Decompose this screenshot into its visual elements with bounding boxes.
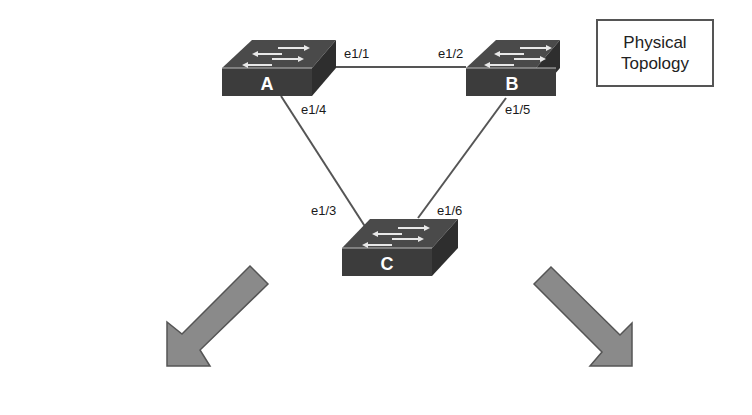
switch-c-label: C: [381, 254, 394, 274]
physical-topology-diagram: A B C e1/1 e1/2 e1/4 e1/3 e1/5 e1/6: [0, 0, 752, 415]
port-label-c-e1-3: e1/3: [311, 204, 336, 217]
switch-a-label: A: [261, 74, 274, 94]
arrow-down-left-icon: [167, 266, 268, 366]
port-label-c-e1-6: e1/6: [437, 204, 462, 217]
switch-b[interactable]: B: [466, 40, 560, 96]
port-label-a-e1-4: e1/4: [301, 103, 326, 116]
title-line-1: Physical: [598, 32, 712, 53]
switch-c[interactable]: C: [342, 219, 458, 276]
physical-topology-title-box: Physical Topology: [596, 19, 714, 87]
link-b-c: [418, 98, 506, 218]
arrow-down-right-icon: [534, 267, 632, 366]
switch-a[interactable]: A: [222, 40, 336, 96]
port-label-b-e1-5: e1/5: [505, 103, 530, 116]
port-label-b-e1-2: e1/2: [438, 47, 463, 60]
title-line-2: Topology: [598, 53, 712, 74]
port-label-a-e1-1: e1/1: [344, 47, 369, 60]
switch-b-label: B: [506, 74, 519, 94]
